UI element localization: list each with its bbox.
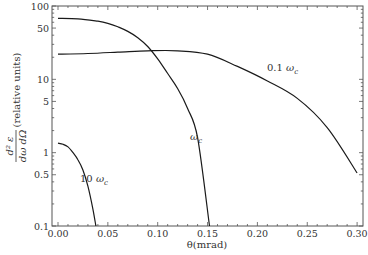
x-tick-label: 0.15 bbox=[197, 228, 218, 239]
x-tick-label: 0.00 bbox=[47, 228, 68, 239]
data-curves bbox=[58, 18, 357, 226]
y-axis-title: d² εdω dΩ(relative units) bbox=[4, 52, 28, 162]
x-tick-label: 0.20 bbox=[247, 228, 268, 239]
curve-label: 10 ωc bbox=[80, 173, 108, 187]
x-tick-label: 0.25 bbox=[297, 228, 318, 239]
y-label-units: (relative units) bbox=[11, 52, 22, 127]
chart: d² εdω dΩ(relative units) 0.000.050.100.… bbox=[0, 0, 368, 255]
x-tick-label: 0.30 bbox=[347, 228, 368, 239]
curve-label: ωc bbox=[190, 131, 202, 145]
y-tick-label: 50 bbox=[37, 23, 49, 34]
curve-10-c bbox=[58, 143, 96, 226]
x-tick-label: 0.05 bbox=[97, 228, 118, 239]
y-tick-label: 1 bbox=[43, 147, 49, 158]
curve--c bbox=[58, 18, 210, 226]
y-tick-label: 10 bbox=[37, 74, 49, 85]
y-tick-label: 5 bbox=[43, 96, 49, 107]
x-tick-label: 0.10 bbox=[147, 228, 168, 239]
x-axis-title: θ(mrad) bbox=[187, 239, 228, 250]
y-tick-label: 0.1 bbox=[34, 221, 49, 232]
curve-annotations: 0.1 ωcωc10 ωc bbox=[80, 62, 298, 187]
curve-0-1-c bbox=[58, 50, 357, 172]
y-label-denominator: dω dΩ bbox=[17, 130, 28, 162]
y-tick-label: 0.5 bbox=[34, 169, 49, 180]
y-tick-label: 100 bbox=[31, 1, 49, 12]
curve-label: 0.1 ωc bbox=[267, 62, 298, 76]
axis-ticks: 0.000.050.100.150.200.250.301005010510.5… bbox=[31, 1, 368, 240]
y-label-numerator: d² ε bbox=[4, 137, 15, 156]
